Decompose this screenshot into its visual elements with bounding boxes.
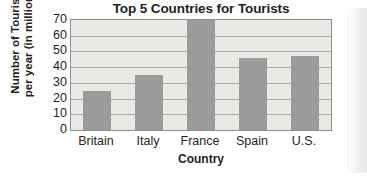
y-axis-title: Number of Tourists per year (in millions…: [3, 0, 41, 99]
y-tick-label-60: 60: [53, 29, 67, 41]
bar-britain: [83, 91, 110, 130]
y-tick-label-0: 0: [60, 123, 67, 135]
y-tick-label-10: 10: [53, 107, 67, 119]
y-tick-label-20: 20: [53, 92, 67, 104]
x-tick-label-u-s: U.S.: [278, 134, 330, 149]
page-edge-artifact: [348, 8, 367, 173]
bar-italy: [135, 75, 162, 130]
y-tick-label-40: 40: [53, 60, 67, 72]
chart-title: Top 5 Countries for Tourists: [70, 1, 332, 16]
y-axis-title-line-2: per year (in millions): [22, 0, 36, 97]
x-tick-label-france: France: [174, 134, 226, 149]
bar-france: [187, 20, 214, 130]
x-axis-tick-labels: BritainItalyFranceSpainU.S.: [70, 134, 332, 152]
x-tick-label-britain: Britain: [70, 134, 122, 149]
plot-area: [70, 19, 332, 131]
x-tick-label-italy: Italy: [122, 134, 174, 149]
bar-u-s: [291, 56, 318, 130]
y-tick-label-50: 50: [53, 44, 67, 56]
bar-spain: [239, 58, 266, 130]
y-axis-tick-labels: 706050403020100: [40, 14, 67, 132]
x-tick-label-spain: Spain: [226, 134, 278, 149]
x-axis-title: Country: [70, 152, 332, 166]
bar-chart-figure: Top 5 Countries for Tourists Number of T…: [0, 0, 367, 181]
y-tick-label-70: 70: [53, 13, 67, 25]
y-tick-label-30: 30: [53, 76, 67, 88]
y-axis-title-line-1: Number of Tourists: [8, 0, 22, 94]
